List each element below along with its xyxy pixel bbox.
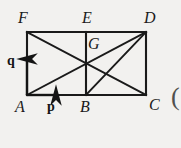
vertex-label-G: G [88,36,100,52]
vertex-label-D: D [144,10,156,26]
vertex-label-C: C [149,97,160,113]
vertex-label-B: B [80,99,90,115]
vector-label-p: p [47,100,55,114]
vertex-label-A: A [15,99,25,115]
geometry-figure: F E D G A B C q p ( [0,0,181,148]
right-parenthesis-mark: ( [171,84,180,110]
vector-label-q: q [7,54,15,68]
vertex-label-E: E [82,10,92,26]
vertex-label-F: F [18,10,28,26]
